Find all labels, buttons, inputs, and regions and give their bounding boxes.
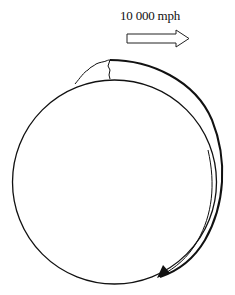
crack-line [108, 60, 110, 79]
bulge-arc [110, 60, 222, 277]
right-arrow-icon [127, 30, 189, 47]
diagram-canvas [0, 0, 235, 295]
planet-circle [13, 80, 217, 284]
